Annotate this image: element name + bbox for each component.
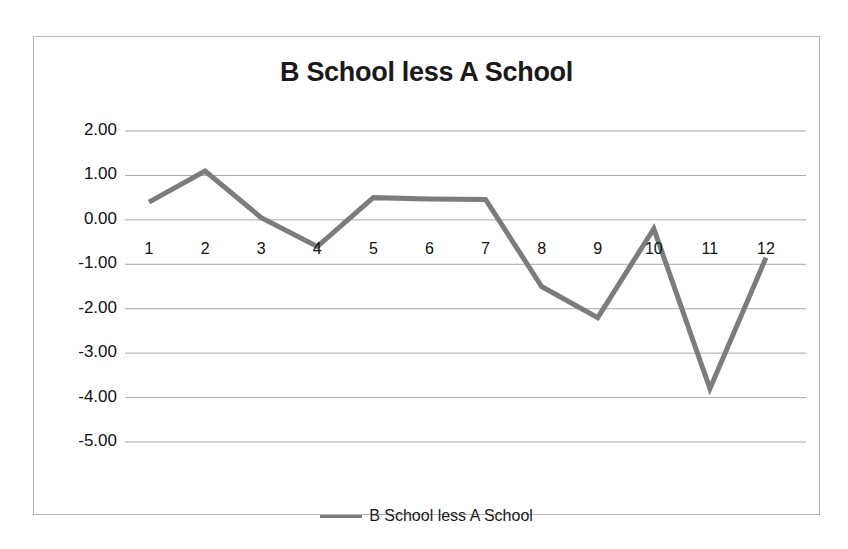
y-axis-tick-label: 0.00: [47, 209, 117, 229]
x-axis-tick-label: 10: [639, 240, 669, 258]
chart-frame: B School less A School 2.001.000.00-1.00…: [33, 36, 820, 515]
x-axis-tick-label: 8: [527, 240, 557, 258]
x-axis-tick-label: 7: [471, 240, 501, 258]
legend-line-swatch: [320, 515, 362, 518]
y-axis-tick-label: 2.00: [47, 120, 117, 140]
gridlines-group: [125, 131, 806, 442]
x-axis-tick-label: 6: [414, 240, 444, 258]
legend-label: B School less A School: [369, 507, 533, 525]
data-line[interactable]: [149, 171, 766, 389]
x-axis-tick-label: 4: [302, 240, 332, 258]
x-axis-tick-label: 5: [358, 240, 388, 258]
plot-area: [34, 37, 821, 516]
x-axis-tick-label: 1: [134, 240, 164, 258]
y-axis-tick-label: -2.00: [47, 298, 117, 318]
x-axis-tick-label: 9: [583, 240, 613, 258]
y-axis-tick-label: -4.00: [47, 387, 117, 407]
x-axis-tick-label: 12: [751, 240, 781, 258]
y-axis-tick-label: -3.00: [47, 342, 117, 362]
y-axis-tick-label: 1.00: [47, 164, 117, 184]
x-axis-tick-label: 2: [190, 240, 220, 258]
y-axis-tick-label: -5.00: [47, 431, 117, 451]
data-series-group: [149, 171, 766, 389]
chart-legend: B School less A School: [34, 507, 819, 525]
x-axis-tick-label: 3: [246, 240, 276, 258]
x-axis-tick-label: 11: [695, 240, 725, 258]
y-axis-tick-label: -1.00: [47, 253, 117, 273]
